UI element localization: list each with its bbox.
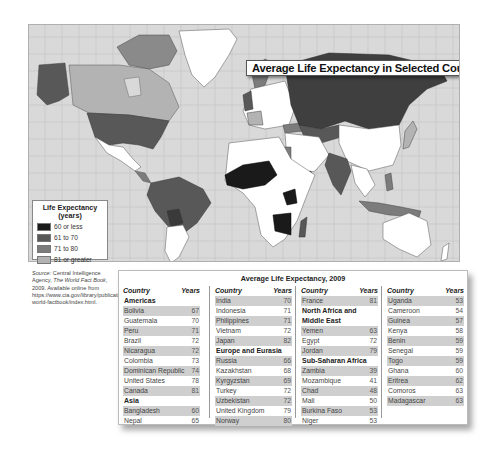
table-row: Jordan79	[301, 346, 378, 356]
life-expectancy-years: 60	[191, 406, 199, 416]
life-expectancy-years: 65	[191, 416, 199, 426]
table-row: Benin59	[387, 336, 464, 346]
country-name: Russia	[216, 356, 237, 366]
life-expectancy-years: 79	[369, 346, 377, 356]
life-expectancy-years: 63	[455, 396, 463, 406]
life-expectancy-years: 53	[455, 296, 463, 306]
table-row: Togo59	[387, 356, 464, 366]
table-row: Cameroon54	[387, 306, 464, 316]
life-expectancy-years: 72	[369, 336, 377, 346]
life-expectancy-years: 60	[455, 366, 463, 376]
life-expectancy-years: 71	[283, 306, 291, 316]
country-name: Ghana	[388, 366, 408, 376]
legend-swatch	[37, 245, 51, 253]
country-name: Brazil	[124, 336, 141, 346]
legend-subtitle: (years)	[37, 212, 103, 220]
table-row: Dominican Republic74	[123, 366, 200, 376]
country-name: Burkina Faso	[302, 406, 342, 416]
table-row: Philippines71	[215, 316, 292, 326]
life-expectancy-years: 78	[191, 376, 199, 386]
header-country: Country	[387, 286, 414, 296]
legend-swatch	[37, 234, 51, 242]
life-expectancy-years: 71	[283, 316, 291, 326]
table-row: Kyrgyzstan69	[215, 376, 292, 386]
table-header: CountryYears	[387, 286, 464, 296]
country-name: Kazakhstan	[216, 366, 252, 376]
country-name: Chad	[302, 386, 318, 396]
life-expectancy-years: 72	[283, 396, 291, 406]
life-expectancy-years: 62	[455, 376, 463, 386]
life-expectancy-years: 53	[369, 406, 377, 416]
table-row: Japan82	[215, 336, 292, 346]
table-row: Peru71	[123, 326, 200, 336]
life-expectancy-years: 53	[369, 416, 377, 426]
table-row: Bangladesh60	[123, 406, 200, 416]
life-expectancy-years: 57	[455, 316, 463, 326]
life-expectancy-years: 71	[191, 326, 199, 336]
region-australia	[383, 213, 431, 257]
life-expectancy-years: 58	[455, 326, 463, 336]
source-citation: Source: Central Intelligence Agency, The…	[32, 270, 114, 306]
region-new-zealand	[441, 243, 449, 261]
table-column: CountryYearsUganda53Cameroon54Guinea57Ke…	[381, 286, 464, 418]
table-row: United States78	[123, 376, 200, 386]
table-row: Kenya58	[387, 326, 464, 336]
country-name: Dominican Republic	[124, 366, 184, 376]
country-name: Bolivia	[124, 306, 144, 316]
table-column: CountryYearsAmericasBolivia67Guatemala70…	[123, 286, 200, 426]
map-title: Average Life Expectancy in Selected Coun…	[246, 60, 460, 76]
life-expectancy-years: 72	[191, 346, 199, 356]
life-expectancy-years: 50	[369, 396, 377, 406]
country-name: Kyrgyzstan	[216, 376, 250, 386]
table-section-heading: Asia	[123, 396, 200, 406]
life-expectancy-years: 63	[455, 386, 463, 396]
country-name: Nepal	[124, 416, 142, 426]
life-expectancy-years: 72	[283, 326, 291, 336]
map-legend: Life Expectancy (years) 60 or less 61 to…	[32, 200, 108, 260]
table-row: Guatemala70	[123, 316, 200, 326]
country-name: Mozambique	[302, 376, 341, 386]
header-years: Years	[359, 286, 378, 296]
region-united-kingdom	[243, 91, 253, 111]
country-name: Kenya	[388, 326, 407, 336]
table-row: Uzbekistan72	[215, 396, 292, 406]
country-name: Vietnam	[216, 326, 241, 336]
country-name: United States	[124, 376, 165, 386]
table-row: Madagascar63	[387, 396, 464, 406]
source-publication: The World Fact Book,	[53, 277, 107, 283]
life-expectancy-years: 67	[191, 306, 199, 316]
table-row: Colombia73	[123, 356, 200, 366]
legend-label: 61 to 70	[54, 234, 78, 241]
country-name: Togo	[388, 356, 403, 366]
table-row: Russia66	[215, 356, 292, 366]
country-name: Nicaragua	[124, 346, 155, 356]
country-name: Canada	[124, 386, 148, 396]
table-row: Comoros63	[387, 386, 464, 396]
legend-item-71-to-80: 71 to 80	[37, 244, 103, 253]
table-row: Senegal59	[387, 346, 464, 356]
life-expectancy-years: 41	[369, 376, 377, 386]
country-name: Colombia	[124, 356, 153, 366]
life-expectancy-years: 81	[369, 296, 377, 306]
country-name: Benin	[388, 336, 405, 346]
legend-swatch	[37, 223, 51, 231]
country-name: Senegal	[388, 346, 413, 356]
table-row: United Kingdom79	[215, 406, 292, 416]
country-name: Eritrea	[388, 376, 408, 386]
country-name: Bangladesh	[124, 406, 160, 416]
table-section-heading: Sub-Saharan Africa	[301, 356, 378, 366]
legend-label: 71 to 80	[54, 245, 78, 252]
table-column: CountryYearsFrance81North Africa andMidd…	[295, 286, 378, 418]
country-name: Jordan	[302, 346, 323, 356]
table-row: Burkina Faso53	[301, 406, 378, 416]
region-philippines	[385, 173, 393, 191]
country-name: Norway	[216, 416, 239, 426]
table-row: Ghana60	[387, 366, 464, 376]
table-row: France81	[301, 296, 378, 306]
table-row: Turkey72	[215, 386, 292, 396]
table-row: Guinea57	[387, 316, 464, 326]
region-south-america-south	[165, 225, 189, 262]
life-expectancy-years: 39	[369, 366, 377, 376]
region-canada	[69, 65, 179, 121]
country-name: Japan	[216, 336, 235, 346]
